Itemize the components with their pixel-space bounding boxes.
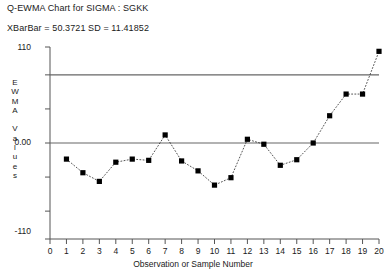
data-point-marker bbox=[327, 113, 332, 118]
x-tick-label: 10 bbox=[208, 246, 222, 256]
data-point-marker bbox=[278, 163, 283, 168]
x-tick-label: 5 bbox=[125, 246, 139, 256]
data-point-marker bbox=[311, 140, 316, 145]
x-tick-label: 4 bbox=[109, 246, 123, 256]
data-point-marker bbox=[113, 160, 118, 165]
data-point-marker bbox=[179, 158, 184, 163]
x-tick-label: 2 bbox=[76, 246, 90, 256]
x-tick-label: 3 bbox=[92, 246, 106, 256]
axes bbox=[45, 47, 379, 244]
data-point-marker bbox=[64, 157, 69, 162]
x-tick-label: 12 bbox=[240, 246, 254, 256]
x-tick-label: 6 bbox=[142, 246, 156, 256]
data-point-marker bbox=[360, 91, 365, 96]
data-point-marker bbox=[245, 137, 250, 142]
plot-area bbox=[0, 0, 386, 275]
x-tick-label: 19 bbox=[356, 246, 370, 256]
x-tick-label: 1 bbox=[59, 246, 73, 256]
x-tick-label: 7 bbox=[158, 246, 172, 256]
q-ewma-chart: Q-EWMA Chart for SIGMA : SGKK XBarBar = … bbox=[0, 0, 386, 275]
data-point-marker bbox=[228, 175, 233, 180]
data-point-marker bbox=[344, 91, 349, 96]
x-tick-label: 16 bbox=[306, 246, 320, 256]
x-tick-label: 11 bbox=[224, 246, 238, 256]
x-tick-label: 8 bbox=[175, 246, 189, 256]
reference-lines bbox=[50, 75, 379, 143]
data-point-marker bbox=[163, 132, 168, 137]
data-point-marker bbox=[146, 158, 151, 163]
data-point-marker bbox=[212, 183, 217, 188]
data-point-marker bbox=[195, 168, 200, 173]
x-tick-label: 20 bbox=[372, 246, 386, 256]
x-tick-label: 18 bbox=[339, 246, 353, 256]
x-tick-label: 17 bbox=[323, 246, 337, 256]
data-point-marker bbox=[97, 179, 102, 184]
data-point-marker bbox=[130, 157, 135, 162]
data-point-marker bbox=[376, 49, 381, 54]
x-tick-label: 14 bbox=[273, 246, 287, 256]
data-point-marker bbox=[294, 157, 299, 162]
data-point-marker bbox=[80, 170, 85, 175]
x-tick-label: 0 bbox=[43, 246, 57, 256]
x-tick-label: 15 bbox=[290, 246, 304, 256]
x-tick-label: 13 bbox=[257, 246, 271, 256]
x-tick-label: 9 bbox=[191, 246, 205, 256]
data-point-marker bbox=[261, 142, 266, 147]
